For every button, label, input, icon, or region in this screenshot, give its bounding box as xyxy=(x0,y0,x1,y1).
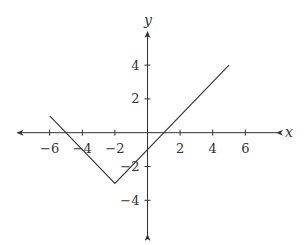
x-axis-label: x xyxy=(285,124,293,140)
axes xyxy=(18,32,278,235)
chart: −6−4−224642−2−4 x y xyxy=(0,0,308,245)
y-tick-label: 2 xyxy=(131,91,139,106)
x-tick-label: −2 xyxy=(105,141,124,156)
x-tick-label: −6 xyxy=(40,141,59,156)
x-tick-label: 4 xyxy=(209,141,217,156)
x-tick-label: 6 xyxy=(241,141,249,156)
y-tick-label: −4 xyxy=(120,193,139,208)
y-tick-label: 4 xyxy=(131,58,139,73)
y-axis-label: y xyxy=(143,12,153,28)
x-tick-label: 2 xyxy=(176,141,184,156)
